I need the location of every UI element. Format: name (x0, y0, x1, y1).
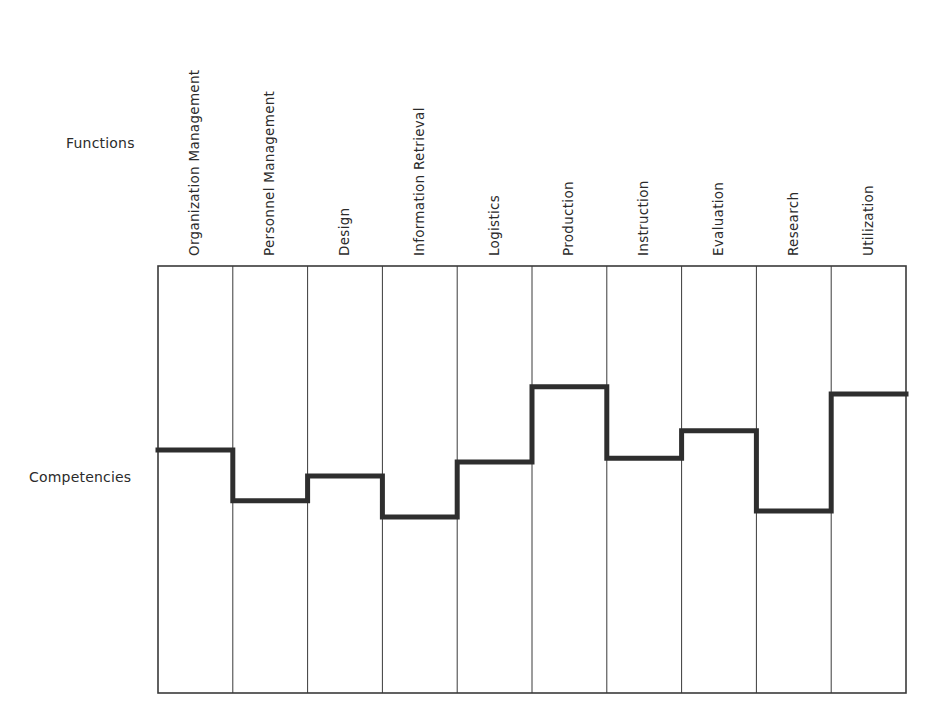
function-label: Organization Management (186, 70, 202, 256)
function-label: Production (560, 181, 576, 256)
function-label: Logistics (486, 195, 502, 256)
function-label: Evaluation (710, 182, 726, 256)
competency-profile-diagram: Organization ManagementPersonnel Managem… (0, 0, 931, 722)
function-label: Design (336, 208, 352, 256)
function-label: Instruction (635, 180, 651, 256)
function-column-labels: Organization ManagementPersonnel Managem… (186, 70, 875, 256)
function-label: Information Retrieval (411, 107, 427, 256)
function-grid (158, 266, 906, 693)
function-label: Research (785, 192, 801, 256)
function-label: Personnel Management (261, 91, 277, 256)
function-label: Utilization (860, 185, 876, 256)
